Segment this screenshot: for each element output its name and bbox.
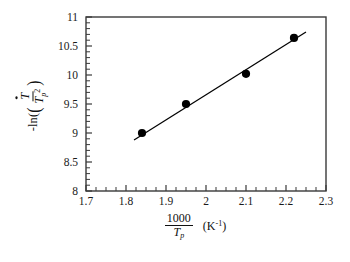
y-axis-close-paren: ) xyxy=(25,80,44,85)
y-axis-denominator: T xyxy=(33,96,47,103)
y-axis-fraction: T Tp2 xyxy=(20,86,49,105)
plot-frame xyxy=(86,17,326,191)
ytick-label-11: 11 xyxy=(48,12,78,24)
ytick-label-10-5: 10.5 xyxy=(48,41,78,53)
x-axis-numerator: 1000 xyxy=(165,212,193,226)
y-axis-numerator: T xyxy=(20,92,33,99)
x-axis-unit: (K-1) xyxy=(203,219,226,234)
x-axis-denominator-sub: p xyxy=(180,231,184,240)
xtick-label-2: 2 xyxy=(186,196,226,208)
xtick-label-1-9: 1.9 xyxy=(146,196,186,208)
x-axis-unit-close: ) xyxy=(222,219,226,233)
data-point xyxy=(242,70,250,78)
chart-figure: 8 8.5 9 9.5 10 10.5 11 1.7 1.8 1.9 2 2.1… xyxy=(0,0,350,262)
data-point xyxy=(290,34,298,42)
ytick-label-8-5: 8.5 xyxy=(48,157,78,169)
xtick-label-2-3: 2.3 xyxy=(306,196,346,208)
xtick-label-2-2: 2.2 xyxy=(266,196,306,208)
x-axis-fraction: 1000 Tp xyxy=(165,212,193,241)
xtick-label-1-8: 1.8 xyxy=(106,196,146,208)
xtick-label-2-1: 2.1 xyxy=(226,196,266,208)
y-axis-label: -ln( ( T Tp2 ) xyxy=(14,60,54,150)
x-axis-label: 1000 Tp (K-1) xyxy=(120,212,270,241)
x-axis-unit-open: (K xyxy=(203,219,216,233)
xtick-label-1-7: 1.7 xyxy=(66,196,106,208)
y-axis-label-prefix: -ln( xyxy=(27,112,42,130)
data-point xyxy=(182,100,190,108)
data-point xyxy=(138,129,146,137)
y-axis-denominator-sup: 2 xyxy=(33,88,42,92)
y-axis-open-paren: ( xyxy=(25,107,44,112)
